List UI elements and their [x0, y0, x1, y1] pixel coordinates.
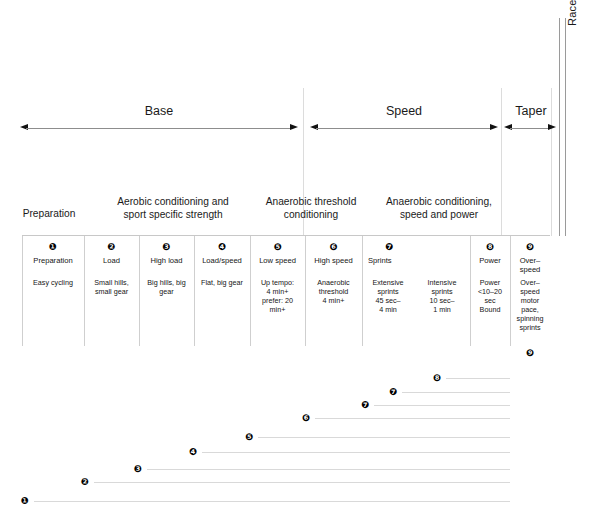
- race-divider-line-inner: [565, 18, 566, 236]
- table-cell-number-7: ❼: [362, 241, 416, 252]
- step-marker: ❶: [19, 496, 31, 506]
- step-marker: ❸: [132, 464, 144, 474]
- block-title-aerobic-conditioning: Aerobic conditioning and sport specific …: [92, 196, 254, 221]
- step-marker: ❺: [243, 432, 255, 442]
- table-cell-body-5: Up tempo: 4 min+ prefer: 20 min+: [250, 278, 305, 314]
- table-cell-body-2: Small hills, small gear: [84, 278, 139, 296]
- phase-arrow-track-taper: [510, 128, 548, 129]
- table-cell-number-4: ❹: [194, 241, 250, 252]
- table-cell-body-3: Big hills, big gear: [139, 278, 194, 296]
- block-title-anaerobic-speed-power: Anaerobic conditioning, speed and power: [368, 196, 510, 221]
- table-cell-number-8: ❽: [470, 241, 510, 252]
- block-title-preparation: Preparation: [8, 208, 90, 221]
- table-cell-number-2: ❷: [84, 241, 139, 252]
- race-label: Race: [566, 0, 582, 26]
- table-cell-title-4: Load/speed: [194, 256, 250, 265]
- table-cell-title-8: Power: [470, 256, 510, 265]
- table-cell-body-8: Power <10–20 sec Bound: [470, 278, 510, 314]
- step-marker: ❻: [300, 413, 312, 423]
- table-cell-title-2: Load: [84, 256, 139, 265]
- step-line: [202, 452, 510, 453]
- table-cell-number-6: ❻: [305, 241, 362, 252]
- phase-arrow-right-speed: [490, 124, 498, 130]
- phase-arrow-right-taper: [548, 124, 556, 130]
- table-cell-body-1: Easy cycling: [22, 278, 84, 287]
- table-cell-number-9: ❾: [510, 241, 550, 252]
- periodization-diagram: Race Base Speed Taper Preparation Aerobi…: [0, 0, 604, 514]
- step-line: [258, 437, 510, 438]
- table-cell-title-9: Over– speed: [510, 256, 550, 274]
- phase-arrow-track-speed: [316, 128, 492, 129]
- step-marker: ❹: [187, 447, 199, 457]
- step-marker: ❽: [431, 373, 443, 383]
- table-cell-number-3: ❸: [139, 241, 194, 252]
- table-cell-body-9: Over– speed motor pace, spinning sprints: [510, 278, 550, 332]
- step-line: [402, 392, 510, 393]
- phase-arrow-track-base: [26, 128, 292, 129]
- step-line: [147, 469, 510, 470]
- table-cell-body-7a: Extensive sprints 45 sec– 4 min: [362, 278, 414, 314]
- table-col-sep-0: [22, 236, 23, 346]
- step-line: [94, 482, 510, 483]
- table-cell-number-1: ❶: [22, 241, 84, 252]
- step-marker: ❼: [387, 387, 399, 397]
- table-cell-body-6: Anaerobic threshold 4 min+: [305, 278, 362, 305]
- table-cell-body-4: Flat, big gear: [194, 278, 250, 287]
- phase-label-speed: Speed: [310, 104, 498, 118]
- race-divider-line-outer: [559, 18, 560, 236]
- table-cell-number-5: ❺: [250, 241, 305, 252]
- phase-arrow-right-base: [290, 124, 298, 130]
- step-line: [34, 501, 510, 502]
- table-footer-marker: ❾: [510, 347, 550, 358]
- table-cell-title-1: Preparation: [22, 256, 84, 265]
- table-cell-title-7: Sprints: [368, 256, 422, 265]
- table-cell-title-3: High load: [139, 256, 194, 265]
- step-line: [446, 378, 510, 379]
- table-cell-title-6: High speed: [305, 256, 362, 265]
- step-line: [374, 405, 510, 406]
- block-title-anaerobic-threshold: Anaerobic threshold conditioning: [258, 196, 364, 221]
- phase-label-base: Base: [20, 104, 298, 118]
- table-cell-body-7b: Intensive sprints 10 sec– 1 min: [416, 278, 468, 314]
- phase-label-taper: Taper: [504, 104, 558, 118]
- step-line: [315, 418, 510, 419]
- table-cell-title-5: Low speed: [250, 256, 305, 265]
- step-marker: ❼: [359, 400, 371, 410]
- step-marker: ❷: [79, 477, 91, 487]
- table-col-sep-3: [194, 236, 195, 346]
